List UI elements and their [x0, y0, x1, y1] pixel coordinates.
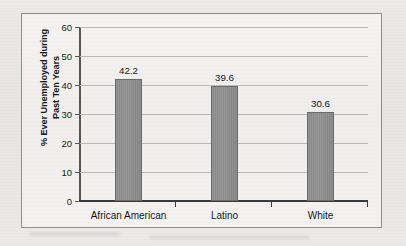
y-tick-label-10: 10: [61, 167, 72, 178]
bar-value-label-latino: 39.6: [215, 72, 234, 83]
x-axis-label-african-american: African American: [91, 210, 167, 221]
y-tick-label-60: 60: [61, 22, 72, 33]
y-axis-title: % Ever Unemployed during Past Ten Years: [39, 8, 62, 168]
x-axis-label-white: White: [308, 210, 334, 221]
bar-value-label-white: 30.6: [311, 98, 330, 109]
x-tick-mark-2: [271, 202, 272, 207]
y-tick-mark-60: [75, 27, 80, 28]
gridline-50: [80, 56, 368, 57]
x-tick-mark-1: [175, 202, 176, 207]
bar-african-american[interactable]: [115, 79, 142, 201]
scan-smudge: [30, 232, 120, 236]
y-tick-mark-40: [75, 85, 80, 86]
y-tick-label-50: 50: [61, 51, 72, 62]
y-tick-mark-0: [75, 201, 80, 202]
bar-white[interactable]: [307, 112, 334, 201]
y-tick-label-40: 40: [61, 80, 72, 91]
chart-frame: % Ever Unemployed during Past Ten Years …: [21, 13, 382, 228]
y-tick-mark-20: [75, 143, 80, 144]
y-tick-mark-30: [75, 114, 80, 115]
x-axis-label-latino: Latino: [211, 210, 238, 221]
scan-smudge: [150, 236, 310, 239]
y-tick-label-20: 20: [61, 138, 72, 149]
y-tick-label-0: 0: [67, 196, 72, 207]
bar-value-label-african-american: 42.2: [119, 65, 138, 76]
page-canvas: % Ever Unemployed during Past Ten Years …: [0, 0, 406, 246]
gridline-60: [80, 27, 368, 28]
y-tick-mark-50: [75, 56, 80, 57]
bar-latino[interactable]: [211, 86, 238, 201]
y-tick-mark-10: [75, 172, 80, 173]
y-tick-label-30: 30: [61, 109, 72, 120]
x-tick-mark-3: [367, 202, 368, 207]
plot-area: 60 50 40 30 20 10 0 42.2 39.6 30.6 Afric…: [80, 27, 368, 201]
